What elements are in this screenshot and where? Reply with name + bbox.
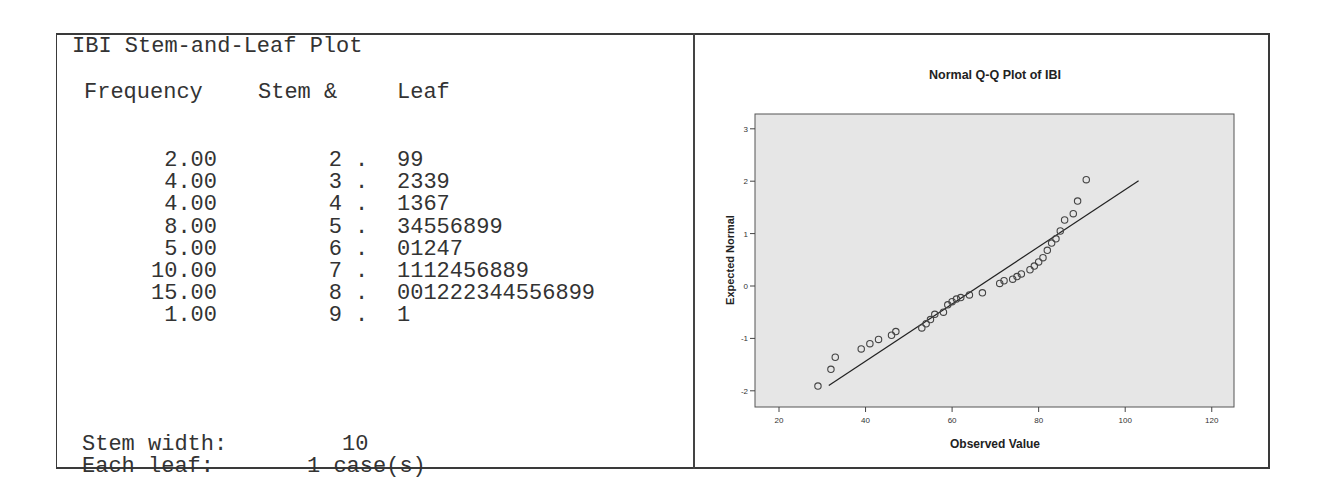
y-tick-label: -2 <box>741 387 749 396</box>
y-tick-label: 3 <box>744 125 749 134</box>
y-axis: 3210-1-2 <box>741 125 755 396</box>
x-tick-label: 40 <box>861 416 870 425</box>
x-axis: 20406080100120 <box>775 407 1219 425</box>
x-tick-label: 100 <box>1119 416 1133 425</box>
y-tick-label: 1 <box>744 230 749 239</box>
qq-plot: Normal Q-Q Plot of IBI 3210-1-2 20406080… <box>0 0 1329 504</box>
y-axis-label: Expected Normal <box>724 215 736 305</box>
y-tick-label: -1 <box>741 334 749 343</box>
x-tick-label: 20 <box>775 416 784 425</box>
y-tick-label: 2 <box>744 177 749 186</box>
x-tick-label: 120 <box>1205 416 1219 425</box>
y-tick-label: 0 <box>744 282 749 291</box>
x-tick-label: 80 <box>1034 416 1043 425</box>
x-axis-label: Observed Value <box>950 437 1040 451</box>
plot-area <box>755 114 1234 407</box>
x-tick-label: 60 <box>948 416 957 425</box>
chart-title: Normal Q-Q Plot of IBI <box>929 68 1061 82</box>
